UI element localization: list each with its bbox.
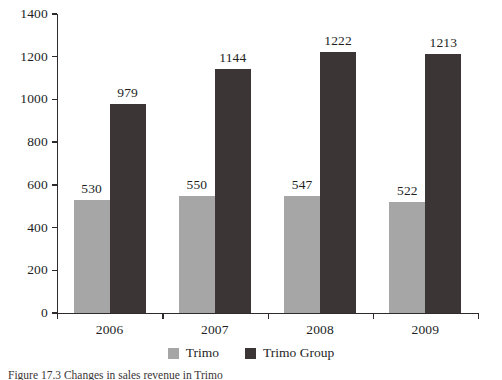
legend-label: Trimo Group <box>263 345 334 361</box>
x-axis-label-2007: 2007 <box>201 322 229 338</box>
bar-trimo-group-2008 <box>320 52 356 313</box>
y-axis-tick-label: 0 <box>41 305 57 321</box>
bar-trimo-group-2007 <box>215 69 251 313</box>
bar-value-label: 530 <box>81 181 102 197</box>
y-axis-tick-label: 800 <box>27 134 57 150</box>
bar-value-label: 1144 <box>219 50 246 66</box>
y-axis-tick-label: 1400 <box>20 6 57 22</box>
bar-trimo-2008 <box>284 196 320 313</box>
legend-item-trimo: Trimo <box>168 345 219 361</box>
bar-value-label: 550 <box>186 177 207 193</box>
bar-value-label: 1222 <box>324 33 352 49</box>
y-axis-tick-label: 200 <box>27 262 57 278</box>
x-axis-tick-mark <box>478 313 479 319</box>
bar-trimo-2007 <box>179 196 215 313</box>
bar-trimo-2009 <box>389 202 425 313</box>
x-axis-tick-mark <box>57 313 58 319</box>
y-axis-tick-label: 1000 <box>20 91 57 107</box>
legend-swatch-icon <box>245 348 256 359</box>
x-axis-label-2006: 2006 <box>96 322 124 338</box>
legend-item-trimo-group: Trimo Group <box>245 345 334 361</box>
bar-value-label: 547 <box>292 177 313 193</box>
chart-legend: TrimoTrimo Group <box>0 345 502 361</box>
y-axis-tick-label: 400 <box>27 220 57 236</box>
x-axis-label-2008: 2008 <box>306 322 334 338</box>
x-axis-tick-mark <box>268 313 269 319</box>
x-axis-tick-mark <box>373 313 374 319</box>
y-axis-tick-label: 1200 <box>20 49 57 65</box>
figure-caption-text: Figure 17.3 Changes in sales revenue in … <box>8 369 223 380</box>
x-axis-tick-mark <box>162 313 163 319</box>
bar-value-label: 979 <box>117 85 138 101</box>
figure-caption: Figure 17.3 Changes in sales revenue in … <box>8 369 488 380</box>
bar-trimo-2006 <box>74 200 110 313</box>
figure-container: 0200400600800100012001400 53097955011445… <box>0 0 502 380</box>
bar-value-label: 1213 <box>429 35 457 51</box>
bar-trimo-group-2006 <box>110 104 146 313</box>
x-axis-label-2009: 2009 <box>411 322 439 338</box>
legend-label: Trimo <box>186 345 219 361</box>
y-axis-tick-label: 600 <box>27 177 57 193</box>
bar-trimo-group-2009 <box>425 54 461 313</box>
legend-swatch-icon <box>168 348 179 359</box>
bar-value-label: 522 <box>397 183 418 199</box>
